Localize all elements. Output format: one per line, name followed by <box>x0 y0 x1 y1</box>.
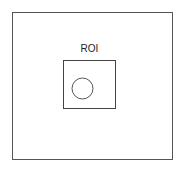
target-circle <box>72 78 93 99</box>
roi-label: ROI <box>81 43 99 54</box>
roi-box <box>64 61 116 109</box>
roi-diagram: ROI <box>0 0 182 170</box>
